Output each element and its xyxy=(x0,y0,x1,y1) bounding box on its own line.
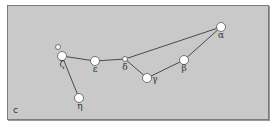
star-label-eta: η xyxy=(77,101,82,111)
line-delta-alpha xyxy=(125,27,221,59)
star-label-delta: δ xyxy=(122,62,127,72)
star-label-epsilon: ε xyxy=(93,64,98,74)
star-gamma xyxy=(143,74,152,83)
line-zeta-eta xyxy=(62,56,79,98)
constellation-diagram: αβγδεζη xyxy=(0,0,279,127)
constellation-lines xyxy=(62,27,221,98)
star-label-beta: β xyxy=(181,63,186,73)
star-delta xyxy=(123,57,128,62)
panel-label: c xyxy=(13,105,18,115)
star-label-gamma: γ xyxy=(152,74,157,84)
star-label-alpha: α xyxy=(218,30,224,40)
star-labels: αβγδεζη xyxy=(60,30,224,111)
line-zeta-epsilon xyxy=(62,56,95,61)
star-companion xyxy=(56,45,61,50)
star-label-zeta: ζ xyxy=(60,59,65,69)
line-beta-alpha xyxy=(184,27,221,60)
